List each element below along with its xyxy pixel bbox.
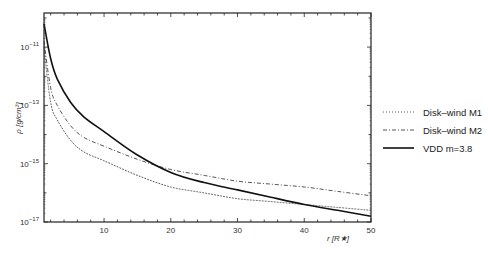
plot-frame <box>44 13 371 222</box>
series-line-dash-dot <box>44 41 371 196</box>
x-tick-label: 10 <box>100 226 109 235</box>
legend-item-m2: Disk–wind M2 <box>383 125 482 136</box>
data-series <box>44 24 371 216</box>
density-profile-chart: 102030405010−1110−1310−1510−17 ρ [g/cm³]… <box>0 0 488 255</box>
y-tick-label: 10−17 <box>20 216 40 227</box>
series-line-dotted <box>44 47 371 210</box>
legend-label: Disk–wind M1 <box>423 107 482 118</box>
x-axis-label: r [R★] <box>327 234 350 243</box>
x-tick-label: 50 <box>367 226 376 235</box>
legend-label: Disk–wind M2 <box>423 125 482 136</box>
x-tick-label: 30 <box>233 226 242 235</box>
legend: Disk–wind M1 Disk–wind M2 VDD m=3.8 <box>383 107 482 154</box>
y-axis-label: ρ [g/cm³] <box>14 102 23 135</box>
y-tick-label: 10−15 <box>20 158 40 169</box>
legend-label: VDD m=3.8 <box>423 143 472 154</box>
legend-item-vdd: VDD m=3.8 <box>383 143 472 154</box>
x-axis-label-var: r <box>327 234 330 243</box>
x-tick-label: 40 <box>300 226 309 235</box>
y-tick-label: 10−11 <box>20 41 39 52</box>
x-axis-label-unit: [R★] <box>331 234 350 243</box>
x-tick-label: 20 <box>166 226 175 235</box>
axis-ticks <box>44 13 371 222</box>
legend-item-m1: Disk–wind M1 <box>383 107 482 118</box>
series-line-solid <box>44 24 371 216</box>
